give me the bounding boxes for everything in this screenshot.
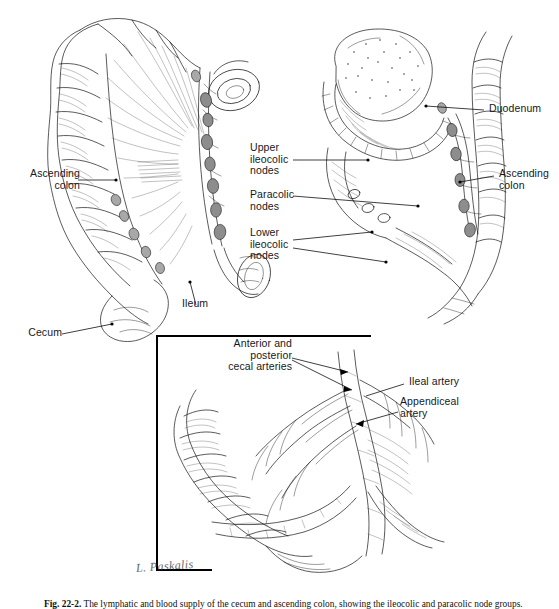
figure-caption: Fig. 22-2. The lymphatic and blood suppl… xyxy=(44,599,544,609)
leader-lines xyxy=(0,0,559,609)
label-ascending-colon-right: Ascending colon xyxy=(499,168,559,191)
label-cecal-arteries: Anterior and posterior cecal arteries xyxy=(186,338,292,373)
figure-root: Ascending colon Cecum Ileum Upper ileoco… xyxy=(0,0,559,609)
caption-number: Fig. 22-2. xyxy=(44,599,81,609)
label-appendiceal-artery: Appendiceal artery xyxy=(400,396,482,419)
label-ileum: Ileum xyxy=(182,298,232,310)
label-paracolic-nodes: Paracolic nodes xyxy=(250,189,312,212)
label-duodenum: Duodenum xyxy=(489,103,559,115)
label-ileal-artery: Ileal artery xyxy=(409,376,491,388)
label-lower-ileocolic-nodes: Lower ileocolic nodes xyxy=(250,227,308,262)
caption-text: The lymphatic and blood supply of the ce… xyxy=(83,599,522,609)
label-cecum: Cecum xyxy=(6,327,62,339)
label-ascending-colon-left: Ascending colon xyxy=(6,168,80,191)
label-upper-ileocolic-nodes: Upper ileocolic nodes xyxy=(250,142,308,177)
